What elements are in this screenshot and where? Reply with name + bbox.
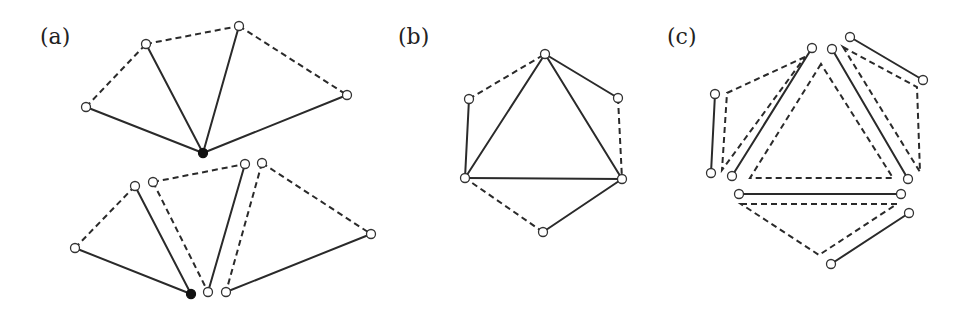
edge-solid — [203, 26, 239, 153]
edge-solid — [543, 179, 622, 232]
vertex — [461, 174, 470, 183]
vertex — [343, 91, 352, 100]
vertex — [222, 288, 231, 297]
panel-b-hexagon — [461, 50, 627, 237]
vertex — [711, 90, 720, 99]
edge-dashed — [226, 163, 262, 292]
vertex — [241, 160, 250, 169]
center-vertex — [187, 290, 196, 299]
center-vertex — [199, 149, 208, 158]
edge-dashed — [618, 98, 622, 179]
vertex — [539, 228, 548, 237]
panel-a-fan — [82, 22, 352, 158]
edge-solid — [545, 54, 622, 179]
edge-solid — [203, 95, 347, 153]
edge-solid — [208, 164, 245, 292]
edge-solid — [465, 178, 622, 179]
vertex — [905, 209, 914, 218]
vertex — [131, 182, 140, 191]
vertex — [828, 45, 837, 54]
edge-dashed — [465, 178, 543, 232]
vertex — [897, 190, 906, 199]
edge-dashed — [75, 186, 135, 248]
vertex — [827, 260, 836, 269]
vertex — [728, 172, 737, 181]
dashed-triangle-left — [722, 57, 805, 170]
vertex — [367, 230, 376, 239]
panel-label-a: (a) — [40, 24, 70, 49]
vertex — [846, 33, 855, 42]
edge-solid — [146, 44, 203, 153]
panel-label-b: (b) — [398, 24, 429, 49]
vertex — [149, 178, 158, 187]
edge-solid — [75, 248, 191, 294]
edge-dashed — [262, 163, 371, 234]
edge-dashed — [239, 26, 347, 95]
vertex — [919, 76, 928, 85]
diagram-canvas: (a) (b) (c) — [0, 0, 960, 310]
vertex — [204, 288, 213, 297]
vertex — [541, 50, 550, 59]
vertex — [735, 190, 744, 199]
panel-c-exploded — [707, 33, 928, 269]
edge-solid — [711, 94, 715, 173]
edge-solid — [850, 37, 923, 80]
edge-solid — [86, 107, 203, 153]
edge-dashed — [146, 26, 239, 44]
vertex — [142, 40, 151, 49]
edge-dashed — [153, 164, 245, 182]
vertex — [614, 94, 623, 103]
edge-solid — [832, 49, 908, 179]
edge-solid — [226, 234, 371, 292]
vertex — [808, 44, 817, 53]
vertex — [71, 244, 80, 253]
vertex — [618, 175, 627, 184]
edge-solid — [545, 54, 618, 98]
vertex — [904, 175, 913, 184]
edge-dashed — [86, 44, 146, 107]
dashed-triangle-center — [750, 64, 893, 178]
edge-solid — [465, 54, 545, 178]
edge-dashed — [469, 54, 545, 99]
panel-a-split — [71, 159, 376, 299]
dashed-triangle-right — [843, 47, 920, 172]
vertex — [707, 169, 716, 178]
edge-solid — [465, 99, 469, 178]
panel-label-c: (c) — [667, 24, 697, 49]
dashed-triangle-bottom — [741, 204, 897, 255]
vertex — [235, 22, 244, 31]
vertex — [82, 103, 91, 112]
vertex — [258, 159, 267, 168]
edge-solid — [732, 48, 812, 176]
vertex — [465, 95, 474, 104]
